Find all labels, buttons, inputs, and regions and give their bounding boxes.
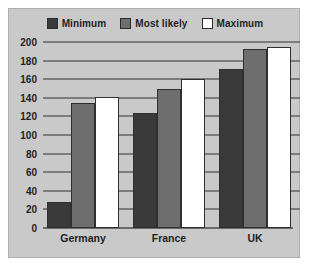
- bar-group-germany: [47, 42, 119, 228]
- x-axis-label-uk: UK: [219, 232, 291, 252]
- axis-edge-tick: [293, 171, 300, 173]
- bar-germany-most-likely[interactable]: [71, 103, 95, 228]
- axis-edge-tick: [293, 134, 300, 136]
- bar-uk-minimum[interactable]: [219, 69, 243, 228]
- bar-uk-maximum[interactable]: [267, 47, 291, 228]
- y-tick-label: 0: [31, 223, 37, 234]
- y-tick-label: 180: [20, 55, 37, 66]
- legend-label-minimum: Minimum: [62, 18, 107, 29]
- y-tick-label: 160: [20, 74, 37, 85]
- y-tick-label: 100: [20, 130, 37, 141]
- y-tick-label: 80: [26, 148, 37, 159]
- axis-edge-tick: [293, 153, 300, 155]
- legend-swatch-minimum: [47, 18, 58, 29]
- x-axis: GermanyFranceUK: [43, 232, 293, 252]
- y-tick-label: 60: [26, 167, 37, 178]
- chart-legend: Minimum Most likely Maximum: [9, 18, 301, 29]
- y-tick-label: 20: [26, 204, 37, 215]
- axis-edge-tick: [293, 78, 300, 80]
- y-tick-label: 200: [20, 37, 37, 48]
- y-tick-label: 120: [20, 111, 37, 122]
- y-axis: 200180160140120100806040200: [9, 42, 41, 228]
- bar-france-minimum[interactable]: [133, 113, 157, 228]
- axis-edge-tick: [293, 60, 300, 62]
- bar-groups: [43, 42, 293, 228]
- legend-item-maximum: Maximum: [202, 18, 264, 29]
- axis-edge-tick: [293, 97, 300, 99]
- bar-germany-maximum[interactable]: [95, 97, 119, 228]
- chart-panel: Minimum Most likely Maximum 200180160140…: [8, 8, 300, 258]
- bar-uk-most-likely[interactable]: [243, 49, 267, 228]
- axis-edge-tick: [293, 41, 300, 43]
- legend-item-most-likely: Most likely: [120, 18, 187, 29]
- plot-wrapper: 200180160140120100806040200 GermanyFranc…: [9, 42, 301, 259]
- y-tick-label: 40: [26, 185, 37, 196]
- x-axis-label-germany: Germany: [47, 232, 119, 252]
- plot-area: [43, 42, 293, 228]
- axis-edge-tick: [293, 208, 300, 210]
- axis-edge-tick: [293, 190, 300, 192]
- bar-group-france: [133, 42, 205, 228]
- legend-swatch-maximum: [202, 18, 213, 29]
- legend-label-most-likely: Most likely: [135, 18, 187, 29]
- legend-item-minimum: Minimum: [47, 18, 107, 29]
- axis-edge-tick: [293, 115, 300, 117]
- bar-france-maximum[interactable]: [181, 79, 205, 228]
- bar-france-most-likely[interactable]: [157, 89, 181, 229]
- bar-germany-minimum[interactable]: [47, 202, 71, 228]
- chart-page: Minimum Most likely Maximum 200180160140…: [0, 0, 310, 274]
- x-axis-label-france: France: [133, 232, 205, 252]
- y-tick-label: 140: [20, 92, 37, 103]
- legend-label-maximum: Maximum: [217, 18, 264, 29]
- bar-group-uk: [219, 42, 291, 228]
- legend-swatch-most-likely: [120, 18, 131, 29]
